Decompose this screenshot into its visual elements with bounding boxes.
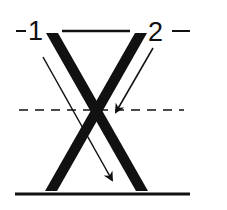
diagram-canvas: 1 2	[0, 0, 227, 210]
x-diagram: 1 2	[0, 0, 227, 210]
label-2: 2	[148, 17, 163, 47]
label-1: 1	[28, 16, 43, 46]
